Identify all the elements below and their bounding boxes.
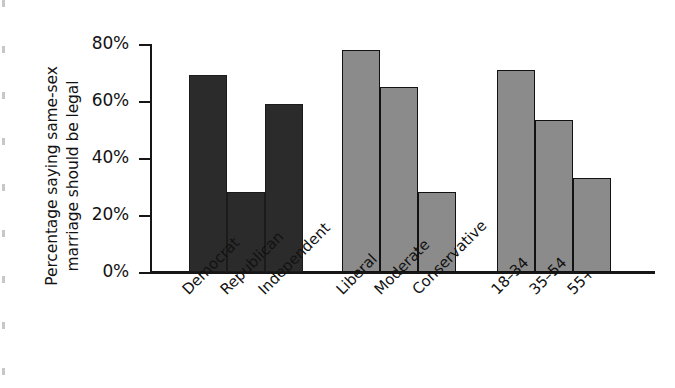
y-tick-label-60: 60% <box>75 92 129 109</box>
bar-group-age <box>497 44 611 272</box>
bar-liberal[interactable] <box>342 50 380 272</box>
y-tick-label-20: 20% <box>75 206 129 223</box>
bar-55-plus[interactable] <box>573 178 611 272</box>
bar-18-34[interactable] <box>497 70 535 272</box>
bar-35-54[interactable] <box>535 120 573 272</box>
bar-chart: Percentage saying same-sex marriage shou… <box>0 0 675 388</box>
y-tick-label-40: 40% <box>75 149 129 166</box>
y-tick-label-0: 0% <box>75 263 129 280</box>
scan-artifact-edge <box>2 0 5 388</box>
bar-group-party <box>189 44 303 272</box>
y-tick-label-80: 80% <box>75 35 129 52</box>
bar-group-ideology <box>342 44 456 272</box>
